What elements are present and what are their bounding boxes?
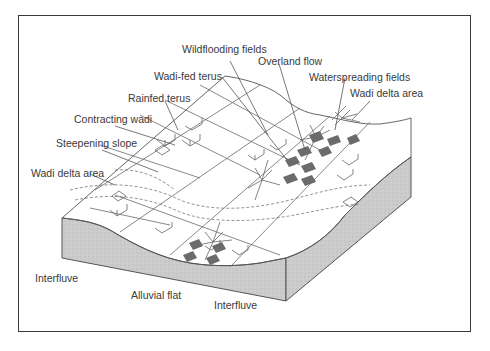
label-steepening-slope: Steepening slope — [56, 138, 137, 149]
label-overland-flow: Overland flow — [258, 56, 322, 67]
block-side-faces — [62, 157, 411, 301]
label-interfluve-left: Interfluve — [35, 273, 78, 284]
label-wildflooding-fields: Wildflooding fields — [182, 44, 267, 55]
label-rainfed-terus: Rainfed terus — [128, 93, 190, 104]
label-wadi-delta-area-left: Wadi delta area — [31, 168, 104, 179]
label-wadi-delta-area-upper: Wadi delta area — [350, 88, 423, 99]
label-wadi-fed-terus: Wadi-fed terus — [154, 71, 222, 82]
label-contracting-wadi: Contracting wadi — [74, 114, 152, 125]
label-interfluve-right: Interfluve — [214, 300, 257, 311]
label-alluvial-flat: Alluvial flat — [131, 290, 181, 301]
label-waterspreading-fields: Waterspreading fields — [309, 72, 410, 83]
